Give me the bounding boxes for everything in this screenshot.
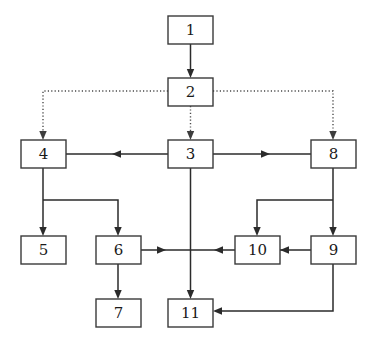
node-9[interactable]: 9: [311, 236, 356, 264]
edge-2-to-3: [187, 106, 194, 140]
edge-9-to-11: [213, 264, 333, 315]
node-10[interactable]: 10: [235, 236, 280, 264]
diagram-canvas: 1 2 4 3 8 5 6 10: [0, 0, 375, 345]
arrowhead-down-icon: [187, 131, 194, 140]
arrowhead-down-icon: [39, 131, 46, 140]
node-5[interactable]: 5: [21, 236, 66, 264]
arrowhead-right-icon: [261, 150, 270, 157]
edge-6-to-7: [114, 264, 121, 299]
arrowhead-down-icon: [39, 227, 46, 236]
arrowhead-left-icon: [112, 150, 121, 157]
node-11[interactable]: 11: [168, 299, 213, 327]
arrowhead-left-icon: [213, 307, 222, 314]
node-7[interactable]: 7: [96, 299, 141, 327]
arrowhead-down-icon: [329, 227, 336, 236]
node-11-label: 11: [181, 304, 200, 322]
node-3[interactable]: 3: [168, 140, 213, 168]
arrowhead-down-icon: [329, 131, 336, 140]
flow-diagram: 1 2 4 3 8 5 6 10: [0, 0, 375, 345]
edge-2-to-8: [213, 91, 337, 140]
arrowhead-right-icon: [157, 246, 166, 253]
edge-3-to-4: [66, 150, 168, 157]
arrowhead-down-icon: [114, 290, 121, 299]
edge-1-to-2: [187, 44, 194, 78]
node-1[interactable]: 1: [168, 16, 213, 44]
node-2-label: 2: [186, 83, 196, 101]
node-5-label: 5: [39, 241, 49, 259]
edge-10-to-center: [191, 246, 236, 253]
node-4[interactable]: 4: [21, 140, 66, 168]
node-1-label: 1: [186, 21, 196, 39]
arrowhead-down-icon: [253, 227, 260, 236]
edge-2-to-4: [39, 91, 168, 140]
edge-9-to-10: [280, 246, 311, 253]
arrowhead-down-icon: [114, 227, 121, 236]
edge-3-to-11: [187, 168, 194, 299]
arrowhead-left-icon: [214, 246, 223, 253]
node-9-label: 9: [329, 241, 339, 259]
arrowhead-down-icon: [187, 69, 194, 78]
node-3-label: 3: [186, 145, 196, 163]
node-8-label: 8: [329, 145, 339, 163]
edge-3-to-8: [213, 150, 311, 157]
node-6[interactable]: 6: [96, 236, 141, 264]
node-4-label: 4: [39, 145, 49, 163]
node-8[interactable]: 8: [311, 140, 356, 168]
edge-6-to-center: [141, 246, 191, 253]
edge-4-to-5-and-6: [39, 168, 121, 236]
node-7-label: 7: [114, 304, 124, 322]
arrowhead-down-icon: [187, 290, 194, 299]
edge-8-to-9-and-10: [253, 168, 336, 236]
node-10-label: 10: [248, 241, 267, 259]
node-6-label: 6: [114, 241, 124, 259]
node-2[interactable]: 2: [168, 78, 213, 106]
arrowhead-left-icon: [280, 246, 289, 253]
